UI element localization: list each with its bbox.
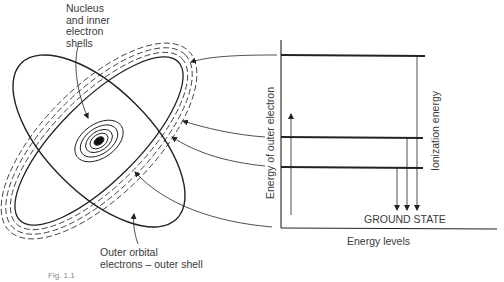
ground-state-label: GROUND STATE [364, 214, 446, 226]
orbit-solid [0, 26, 214, 255]
connector-level-2 [183, 121, 265, 137]
nucleus-icon [67, 112, 131, 171]
nucleus-label-line: shells [66, 38, 110, 50]
figure-caption: Fig. 1.1 [48, 270, 75, 282]
outer-shell-pointer-arrow [134, 214, 138, 244]
ionization-energy-label: Ionization energy [429, 91, 441, 171]
outer-shell-label-line: Outer orbital [100, 247, 203, 259]
energy-level-1 [281, 167, 423, 168]
orbit-outer-shell [0, 12, 228, 269]
connector-ground [135, 172, 272, 227]
energy-level-2 [281, 137, 423, 138]
outer-shell-label: Outer orbital electrons – outer shell [100, 247, 203, 270]
x-axis [281, 228, 497, 229]
y-axis-label: Energy of outer electron [264, 87, 276, 199]
nucleus-label-line: Nucleus [66, 3, 110, 15]
nucleus-label: Nucleus and inner electron shells [66, 3, 110, 49]
connector-ionization [191, 55, 277, 62]
connector-level-1 [172, 137, 265, 166]
nucleus-pointer-arrow [76, 46, 88, 118]
energy-level-ionization [281, 55, 425, 56]
outer-shell-label-line: electrons – outer shell [100, 259, 203, 271]
x-axis-label: Energy levels [347, 236, 410, 248]
nucleus-label-line: electron [66, 26, 110, 38]
